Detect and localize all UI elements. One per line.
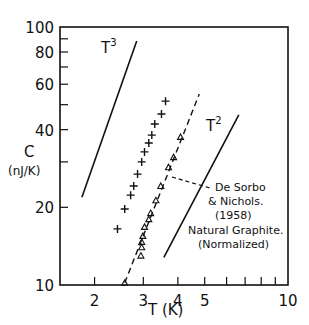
cross-marker xyxy=(157,110,165,118)
svg-text:De Sorbo: De Sorbo xyxy=(215,181,266,194)
x-tick-label: 10 xyxy=(278,292,297,310)
cross-marker xyxy=(138,158,146,166)
cross-marker xyxy=(162,97,170,105)
t2-label: T2 xyxy=(205,115,222,135)
triangle-marker xyxy=(138,253,144,258)
cross-marker xyxy=(113,225,121,233)
chart-figure: 234510 1020406080100 T3 T2 De Sorbo & Ni… xyxy=(0,0,309,325)
cross-marker xyxy=(130,182,138,190)
y-axis-title: C xyxy=(24,143,34,161)
desorbo-label: De Sorbo & Nichols. (1958) Natural Graph… xyxy=(188,181,283,251)
svg-text:Natural Graphite.: Natural Graphite. xyxy=(188,224,283,237)
triangle-marker xyxy=(148,210,154,216)
svg-text:(Normalized): (Normalized) xyxy=(198,238,269,251)
x-tick-label: 5 xyxy=(200,292,210,310)
cross-marker xyxy=(140,148,148,156)
cross-marker xyxy=(148,131,156,139)
cross-marker xyxy=(121,205,129,213)
cross-marker xyxy=(134,170,142,178)
y-tick-label: 80 xyxy=(35,44,54,62)
cross-marker xyxy=(145,139,153,147)
cross-marker xyxy=(127,191,135,199)
series-line xyxy=(82,41,137,197)
y-tick-label: 20 xyxy=(35,199,54,217)
triangle-marker xyxy=(158,183,164,189)
x-axis-title: T (K) xyxy=(147,301,183,319)
triangle-marker xyxy=(141,224,147,230)
triangle-marker xyxy=(166,164,172,170)
triangle-marker xyxy=(178,134,184,140)
y-axis-unit: (nJ/K) xyxy=(8,164,40,178)
y-tick-label: 100 xyxy=(25,19,54,37)
svg-text:& Nichols.: & Nichols. xyxy=(208,195,263,208)
cross-marker xyxy=(151,120,159,128)
y-tick-label: 40 xyxy=(35,122,54,140)
data-points xyxy=(113,97,183,285)
desorbo-leader-line xyxy=(172,177,210,188)
svg-text:(1958): (1958) xyxy=(215,209,252,222)
x-tick-label: 2 xyxy=(90,292,100,310)
y-tick-label: 60 xyxy=(35,76,54,94)
x-tick-label: 3 xyxy=(139,292,149,310)
y-tick-label: 10 xyxy=(35,277,54,295)
x-axis-ticks: 234510 xyxy=(90,277,298,310)
t3-label: T3 xyxy=(100,37,117,57)
